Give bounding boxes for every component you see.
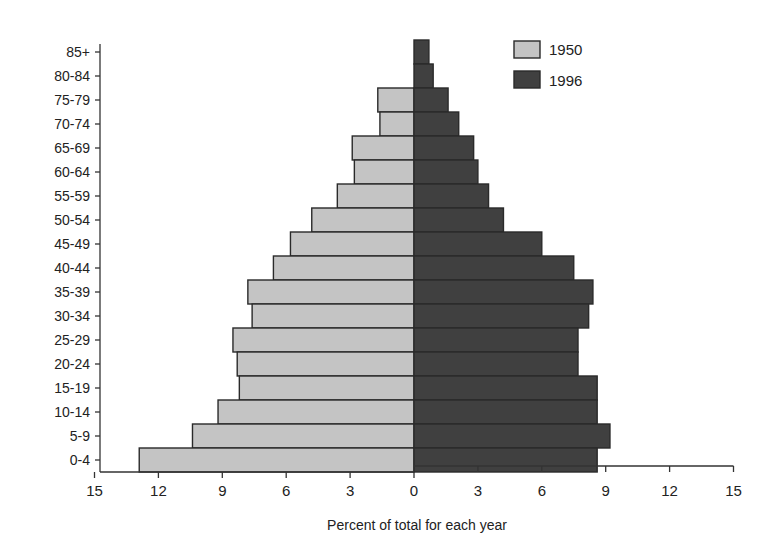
bar-1996-60-64 xyxy=(414,160,478,184)
bar-1996-65-69 xyxy=(414,136,474,160)
bar-1996-30-34 xyxy=(414,304,589,328)
legend-label-1950: 1950 xyxy=(549,41,582,58)
y-tick-label: 45-49 xyxy=(54,236,90,252)
legend-swatch-1950 xyxy=(514,41,540,58)
bar-1996-0-4 xyxy=(414,448,597,472)
y-tick-label: 85+ xyxy=(66,44,90,60)
y-tick-label: 50-54 xyxy=(54,212,90,228)
y-tick-label: 40-44 xyxy=(54,260,90,276)
y-tick-label: 70-74 xyxy=(54,116,90,132)
y-tick-label: 25-29 xyxy=(54,332,90,348)
bar-1950-0-4 xyxy=(139,448,414,472)
series-1996-bars xyxy=(414,40,610,472)
bar-1950-45-49 xyxy=(290,232,414,256)
bar-1996-35-39 xyxy=(414,280,593,304)
bar-1950-5-9 xyxy=(192,424,414,448)
bar-1996-55-59 xyxy=(414,184,489,208)
x-tick-label: 3 xyxy=(346,482,354,499)
bar-1996-70-74 xyxy=(414,112,459,136)
bar-1996-85+ xyxy=(414,40,429,64)
x-tick-label: 9 xyxy=(602,482,610,499)
legend-item-1950: 1950 xyxy=(514,41,582,58)
bar-1950-75-79 xyxy=(378,88,414,112)
x-axis-title: Percent of total for each year xyxy=(327,517,507,533)
bar-1996-50-54 xyxy=(414,208,503,232)
bar-1996-40-44 xyxy=(414,256,574,280)
y-tick-label: 35-39 xyxy=(54,284,90,300)
bar-1996-15-19 xyxy=(414,376,597,400)
y-tick-label: 60-64 xyxy=(54,164,90,180)
bar-1996-75-79 xyxy=(414,88,448,112)
y-tick-label: 65-69 xyxy=(54,140,90,156)
legend-item-1996: 1996 xyxy=(514,71,582,89)
bar-1950-30-34 xyxy=(252,304,414,328)
y-tick-label: 10-14 xyxy=(54,404,90,420)
x-tick-label: 12 xyxy=(150,482,167,499)
x-tick-label: 3 xyxy=(474,482,482,499)
x-tick-label: 12 xyxy=(661,482,678,499)
bar-1950-60-64 xyxy=(354,160,414,184)
bar-1950-15-19 xyxy=(239,376,414,400)
x-tick-label: 15 xyxy=(725,482,742,499)
y-tick-label: 55-59 xyxy=(54,188,90,204)
y-tick-label: 20-24 xyxy=(54,356,90,372)
bar-1996-25-29 xyxy=(414,328,578,352)
population-pyramid-chart: 85+80-8475-7970-7465-6960-6455-5950-5445… xyxy=(0,0,779,543)
bar-1996-5-9 xyxy=(414,424,610,448)
series-1950-bars xyxy=(139,88,414,472)
y-tick-label: 15-19 xyxy=(54,380,90,396)
y-tick-label: 30-34 xyxy=(54,308,90,324)
bar-1996-20-24 xyxy=(414,352,578,376)
legend: 1950 1996 xyxy=(514,41,582,89)
bar-1996-80-84 xyxy=(414,64,433,88)
x-tick-label: 9 xyxy=(218,482,226,499)
y-tick-label: 0-4 xyxy=(70,452,90,468)
y-tick-label: 80-84 xyxy=(54,68,90,84)
bar-1950-10-14 xyxy=(218,400,414,424)
y-tick-label: 75-79 xyxy=(54,92,90,108)
y-tick-label: 5-9 xyxy=(70,428,90,444)
bar-1950-40-44 xyxy=(273,256,414,280)
x-tick-label: 0 xyxy=(410,482,418,499)
bar-1950-55-59 xyxy=(337,184,414,208)
x-tick-label: 6 xyxy=(538,482,546,499)
bar-1950-20-24 xyxy=(237,352,414,376)
legend-label-1996: 1996 xyxy=(549,72,582,89)
legend-swatch-1996 xyxy=(514,71,540,88)
bar-1950-50-54 xyxy=(312,208,414,232)
bar-1950-65-69 xyxy=(352,136,414,160)
x-tick-label: 15 xyxy=(86,482,103,499)
bar-1950-70-74 xyxy=(380,112,414,136)
x-tick-label: 6 xyxy=(282,482,290,499)
bar-1996-10-14 xyxy=(414,400,597,424)
bar-1996-45-49 xyxy=(414,232,542,256)
bar-1950-35-39 xyxy=(248,280,414,304)
y-axis: 85+80-8475-7970-7465-6960-6455-5950-5445… xyxy=(54,44,100,472)
bar-1950-25-29 xyxy=(233,328,414,352)
